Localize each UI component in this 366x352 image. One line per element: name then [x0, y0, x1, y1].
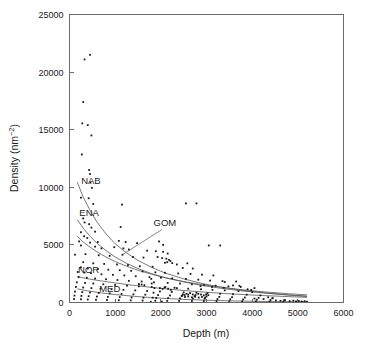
- data-point: [178, 300, 180, 302]
- data-point: [251, 291, 253, 293]
- density-vs-depth-scatter-plot: NABENAGOMNORMED 010002000300040005000600…: [0, 0, 366, 352]
- data-point: [96, 296, 98, 298]
- data-point: [155, 250, 157, 252]
- y-tick-label-25000: 25000: [38, 10, 63, 20]
- data-point: [218, 296, 220, 298]
- figure-container: NABENAGOMNORMED 010002000300040005000600…: [0, 0, 366, 352]
- x-tick-label-6000: 6000: [333, 308, 353, 318]
- x-tick-label-4000: 4000: [242, 308, 262, 318]
- data-point: [246, 294, 248, 296]
- data-point: [228, 285, 230, 287]
- data-point: [92, 283, 94, 285]
- x-axis-ticks: 0100020003000400050006000: [67, 299, 354, 318]
- y-axis-title-exponent: −2: [7, 127, 16, 136]
- data-point: [258, 297, 260, 299]
- data-point: [101, 273, 103, 275]
- data-point: [170, 289, 172, 291]
- data-point: [116, 264, 118, 266]
- data-point: [235, 281, 237, 283]
- y-axis-title-group: Density (nm−2): [7, 124, 21, 192]
- data-point: [95, 299, 97, 301]
- data-point: [92, 203, 94, 205]
- data-point: [200, 294, 202, 296]
- data-point: [200, 288, 202, 290]
- data-point: [88, 197, 90, 199]
- data-point: [185, 203, 187, 205]
- data-point: [74, 291, 76, 293]
- data-point: [118, 299, 120, 301]
- data-point: [141, 281, 143, 283]
- data-point: [159, 287, 161, 289]
- data-point: [130, 299, 132, 301]
- data-point: [263, 298, 265, 300]
- data-point: [138, 285, 140, 287]
- data-point: [152, 297, 154, 299]
- data-point: [272, 297, 274, 299]
- data-point: [242, 299, 244, 301]
- data-point: [183, 291, 185, 293]
- data-point: [192, 268, 194, 270]
- data-point: [182, 267, 184, 269]
- data-point: [192, 294, 194, 296]
- data-point: [88, 223, 90, 225]
- data-point: [186, 293, 188, 295]
- data-point: [171, 262, 173, 264]
- y-axis-title-base: Density (nm: [8, 136, 20, 192]
- data-point: [187, 296, 189, 298]
- data-point: [157, 256, 159, 258]
- data-point: [275, 300, 277, 302]
- data-point: [259, 294, 261, 296]
- data-point: [154, 271, 156, 273]
- data-point: [89, 292, 91, 294]
- data-point: [189, 292, 191, 294]
- y-axis-ticks: 0500010000150002000025000: [38, 10, 73, 308]
- data-point: [159, 291, 161, 293]
- data-point: [185, 278, 187, 280]
- data-point: [119, 269, 121, 271]
- data-point: [198, 297, 200, 299]
- data-point: [121, 293, 123, 295]
- data-point: [103, 263, 105, 265]
- x-tick-label-3000: 3000: [196, 308, 216, 318]
- data-point: [153, 292, 155, 294]
- data-point: [146, 250, 148, 252]
- x-axis-title: Depth (m): [183, 327, 230, 339]
- data-point: [80, 245, 82, 247]
- data-point: [203, 284, 205, 286]
- data-point: [87, 299, 89, 301]
- data-point: [187, 294, 189, 296]
- data-point: [94, 278, 96, 280]
- data-point: [151, 286, 153, 288]
- data-point: [139, 265, 141, 267]
- data-point: [123, 275, 125, 277]
- data-point: [224, 281, 226, 283]
- data-point: [170, 260, 172, 262]
- data-point: [80, 295, 82, 297]
- data-point: [146, 290, 148, 292]
- data-point: [94, 246, 96, 248]
- data-point: [174, 287, 176, 289]
- data-point: [117, 279, 119, 281]
- data-point: [141, 284, 143, 286]
- data-point: [80, 298, 82, 300]
- data-point: [151, 283, 153, 285]
- data-point: [121, 204, 123, 206]
- data-point: [179, 297, 181, 299]
- data-point: [171, 277, 173, 279]
- data-point: [267, 296, 269, 298]
- data-point: [128, 280, 130, 282]
- data-point: [76, 281, 78, 283]
- data-point: [190, 273, 192, 275]
- data-point: [166, 300, 168, 302]
- data-point: [254, 287, 256, 289]
- data-point: [196, 203, 198, 205]
- data-point: [89, 242, 91, 244]
- data-point: [200, 285, 202, 287]
- curve-label-nor: NOR: [78, 264, 99, 275]
- data-point: [219, 245, 221, 247]
- data-point: [91, 135, 93, 137]
- data-point: [191, 296, 193, 298]
- data-point: [177, 273, 179, 275]
- data-point: [107, 296, 109, 298]
- data-point: [222, 280, 224, 282]
